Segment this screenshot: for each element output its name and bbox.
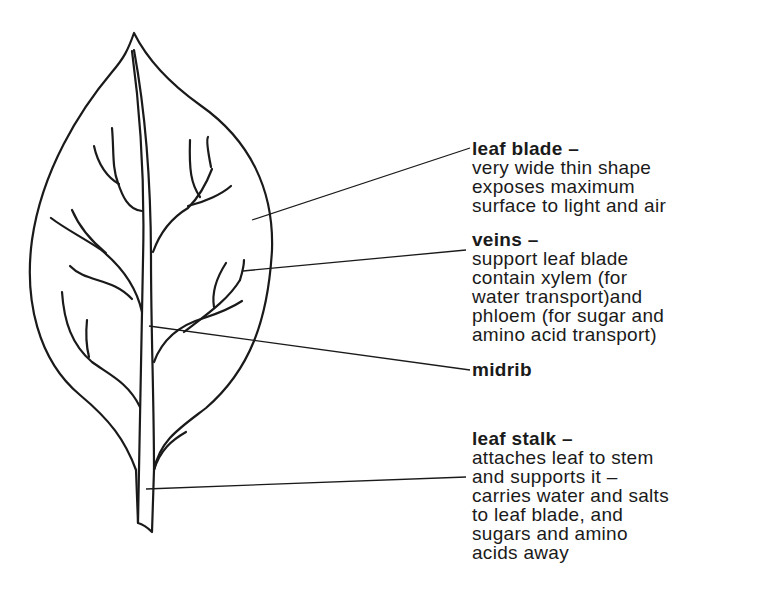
left-veins — [51, 128, 142, 407]
label-veins-line: support leaf blade — [472, 249, 664, 268]
label-veins-line: contain xylem (for — [472, 268, 664, 287]
pointer-veins — [243, 250, 466, 271]
label-midrib: midrib — [472, 360, 532, 379]
leaf-diagram: leaf blade – very wide thin shape expose… — [0, 0, 767, 608]
pointer-midrib — [149, 326, 470, 370]
label-leaf-stalk-line: and supports it – — [472, 467, 669, 486]
label-leaf-blade-line: very wide thin shape — [472, 158, 666, 177]
label-midrib-title: midrib — [472, 360, 532, 379]
right-veins — [153, 137, 244, 470]
pointer-leaf-blade — [252, 148, 470, 220]
label-leaf-stalk: leaf stalk – attaches leaf to stem and s… — [472, 429, 669, 562]
label-leaf-stalk-line: sugars and amino — [472, 524, 669, 543]
label-veins: veins – support leaf blade contain xylem… — [472, 230, 664, 344]
label-veins-title: veins – — [472, 230, 664, 249]
label-leaf-blade-line: surface to light and air — [472, 196, 666, 215]
label-leaf-stalk-line: to leaf blade, and — [472, 505, 669, 524]
label-leaf-stalk-line: attaches leaf to stem — [472, 448, 669, 467]
pointer-leaf-stalk — [146, 477, 466, 489]
label-leaf-blade-title: leaf blade – — [472, 139, 666, 158]
label-veins-line: amino acid transport) — [472, 325, 664, 344]
label-leaf-stalk-title: leaf stalk – — [472, 429, 669, 448]
label-leaf-stalk-line: carries water and salts — [472, 486, 669, 505]
label-leaf-blade-line: exposes maximum — [472, 177, 666, 196]
label-veins-line: water transport)and — [472, 287, 664, 306]
label-veins-line: phloem (for sugar and — [472, 306, 664, 325]
label-leaf-blade: leaf blade – very wide thin shape expose… — [472, 139, 666, 215]
label-leaf-stalk-line: acids away — [472, 543, 669, 562]
